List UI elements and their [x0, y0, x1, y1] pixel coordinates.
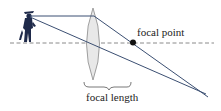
focal-length-label: focal length	[86, 91, 138, 103]
focal-length-brace	[84, 82, 131, 90]
focal-point-marker	[130, 40, 136, 46]
focal-point-label: focal point	[137, 26, 184, 38]
